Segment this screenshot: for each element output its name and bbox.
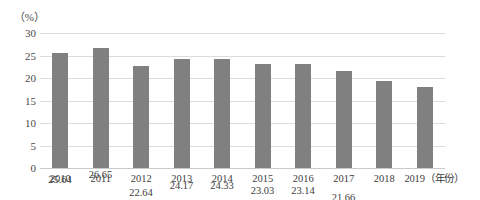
bar (336, 71, 352, 168)
bar-chart: （%） 051015202530 25.6426.6522.6424.1724.… (0, 0, 480, 200)
y-axis-tick-15: 15 (12, 95, 36, 106)
x-axis-tick-2011: 2011 (81, 172, 122, 186)
x-axis-tick-2010: 2010 (40, 172, 81, 186)
bar (376, 81, 392, 168)
y-axis-tick-5: 5 (12, 140, 36, 151)
bar (255, 64, 271, 168)
x-axis-tick-2012: 2012 (121, 172, 162, 186)
bar (174, 59, 190, 168)
x-axis-tick-2016: 2016 (283, 172, 324, 186)
x-axis-tick-2018: 2018 (364, 172, 405, 186)
x-axis-tick-2013: 2013 (162, 172, 203, 186)
plot-area: 25.6426.6522.6424.1724.3323.0323.1421.66… (40, 33, 445, 168)
x-axis-tick-2017: 2017 (324, 172, 365, 186)
bar (133, 66, 149, 168)
x-axis-tick-labels: 2010201120122013201420152016201720182019… (40, 172, 445, 194)
x-axis-tick-2015: 2015 (243, 172, 284, 186)
bar-series: 25.6426.6522.6424.1724.3323.0323.1421.66… (40, 33, 445, 168)
y-axis-tick-25: 25 (12, 50, 36, 61)
y-axis-unit-label: （%） (14, 8, 44, 24)
y-axis-tick-10: 10 (12, 118, 36, 129)
y-axis-tick-labels: 051015202530 (8, 33, 36, 168)
bar (52, 53, 68, 168)
bar (214, 59, 230, 168)
bar (417, 87, 433, 168)
bar (295, 64, 311, 168)
y-axis-tick-30: 30 (12, 28, 36, 39)
y-axis-tick-0: 0 (12, 163, 36, 174)
x-axis-tick-2014: 2014 (202, 172, 243, 186)
x-axis-tick-2019: 2019（年份） (405, 172, 480, 186)
y-axis-tick-20: 20 (12, 73, 36, 84)
bar (93, 48, 109, 168)
